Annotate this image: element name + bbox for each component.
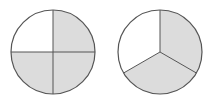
fraction-circles-diagram — [0, 0, 213, 102]
circle-quarters — [11, 10, 95, 94]
circle-thirds — [118, 10, 202, 94]
